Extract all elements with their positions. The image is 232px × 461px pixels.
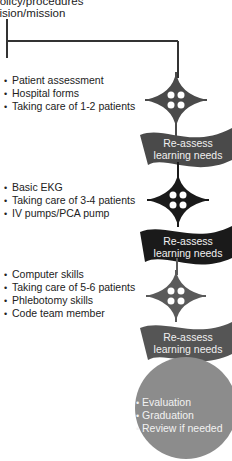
list-item: Computer skills (4, 268, 135, 281)
header-line-1: Policy/procedures (0, 0, 83, 7)
list-item: Review if needed (136, 422, 223, 435)
flow-diagram (0, 0, 232, 461)
stage-2-list: Basic EKG Taking care of 3-4 patients IV… (4, 181, 135, 220)
interchange-icon-1 (145, 72, 207, 128)
list-item: Taking care of 3-4 patients (4, 194, 135, 207)
banner-1-text: Re-assess learning needs (142, 137, 232, 161)
list-item: Basic EKG (4, 181, 135, 194)
list-item: Taking care of 1-2 patients (4, 100, 135, 113)
list-item: Hospital forms (4, 87, 135, 100)
banner-3-text: Re-assess learning needs (142, 331, 232, 355)
list-item: Phlebotomy skills (4, 294, 135, 307)
list-item: Evaluation (136, 396, 223, 409)
list-item: Code team member (4, 307, 135, 320)
list-item: Graduation (136, 409, 223, 422)
list-item: Taking care of 5-6 patients (4, 281, 135, 294)
connector-lines (7, 19, 178, 78)
final-list: Evaluation Graduation Review if needed (136, 396, 223, 435)
banner-2-text: Re-assess learning needs (142, 235, 232, 259)
stage-1-list: Patient assessment Hospital forms Taking… (4, 74, 135, 113)
interchange-icon-2 (147, 173, 209, 227)
stage-3-list: Computer skills Taking care of 5-6 patie… (4, 268, 135, 320)
header-line-2: Vision/mission (0, 7, 65, 19)
interchange-icon-3 (146, 270, 206, 322)
list-item: Patient assessment (4, 74, 135, 87)
list-item: IV pumps/PCA pump (4, 207, 135, 220)
